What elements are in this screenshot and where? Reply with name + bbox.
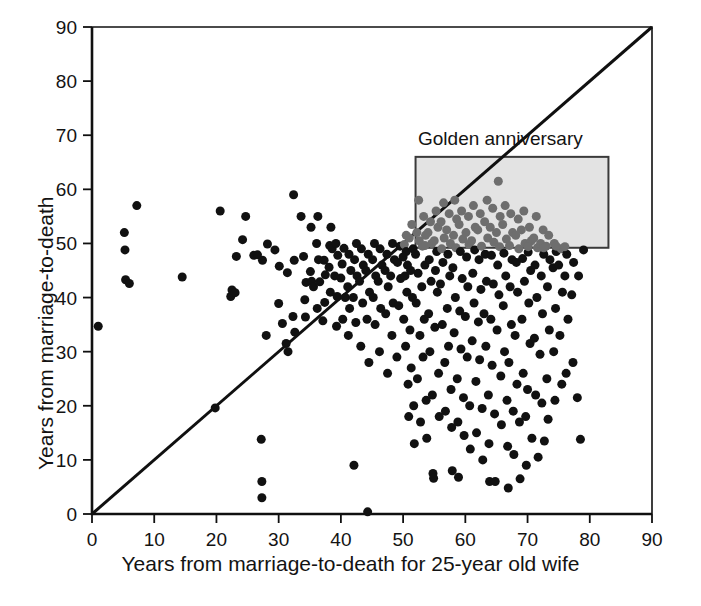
svg-text:0: 0 — [66, 504, 77, 525]
svg-text:60: 60 — [455, 529, 476, 550]
identity-line — [92, 27, 652, 514]
svg-text:50: 50 — [56, 233, 77, 254]
y-axis-title: Years from marriage-to-death — [34, 196, 58, 470]
svg-text:10: 10 — [56, 450, 77, 471]
plot-canvas: 01020304050607080900102030405060708090 — [0, 0, 701, 606]
svg-text:10: 10 — [144, 529, 165, 550]
svg-text:40: 40 — [56, 288, 77, 309]
svg-text:0: 0 — [87, 529, 98, 550]
svg-text:40: 40 — [330, 529, 351, 550]
golden-anniversary-label: Golden anniversary — [418, 128, 583, 150]
svg-text:80: 80 — [579, 529, 600, 550]
svg-text:90: 90 — [56, 17, 77, 38]
svg-text:20: 20 — [206, 529, 227, 550]
x-axis-title: Years from marriage-to-death for 25-year… — [0, 552, 701, 576]
svg-text:70: 70 — [517, 529, 538, 550]
svg-text:60: 60 — [56, 179, 77, 200]
svg-text:20: 20 — [56, 396, 77, 417]
svg-text:90: 90 — [641, 529, 662, 550]
svg-text:80: 80 — [56, 71, 77, 92]
svg-text:50: 50 — [393, 529, 414, 550]
svg-text:30: 30 — [56, 342, 77, 363]
scatter-plot-figure: 01020304050607080900102030405060708090 G… — [0, 0, 701, 606]
svg-text:70: 70 — [56, 125, 77, 146]
svg-text:30: 30 — [268, 529, 289, 550]
